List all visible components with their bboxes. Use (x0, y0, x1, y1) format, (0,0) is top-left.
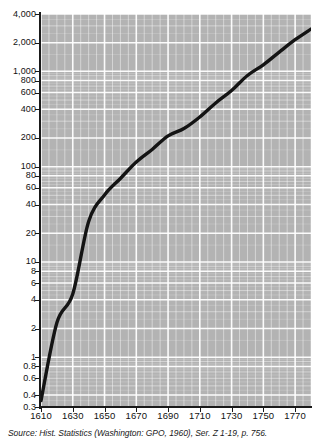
y-tick-mark (35, 357, 40, 358)
x-tick-mark (263, 408, 264, 412)
x-tick-label: 1710 (189, 411, 211, 421)
y-tick-label: 4,000 (13, 10, 36, 19)
x-tick-label: 1630 (62, 411, 84, 421)
plot-area (41, 14, 311, 407)
plot-canvas (41, 14, 311, 407)
x-tick-mark (41, 408, 42, 412)
y-tick-mark (35, 14, 40, 15)
x-tick-mark (168, 408, 169, 412)
x-tick-mark (105, 408, 106, 412)
x-axis-line (39, 406, 312, 408)
x-tick-label: 1670 (126, 411, 148, 421)
y-tick-mark (35, 138, 40, 139)
x-tick-label: 1770 (284, 411, 306, 421)
x-tick-mark (136, 408, 137, 412)
y-tick-mark (35, 283, 40, 284)
y-tick-mark (35, 395, 40, 396)
y-tick-mark (35, 43, 40, 44)
y-tick-mark (35, 300, 40, 301)
x-tick-mark (73, 408, 74, 412)
y-tick-mark (35, 93, 40, 94)
y-tick-mark (35, 176, 40, 177)
source-note: Source: Hist. Statistics (Washington: GP… (8, 428, 267, 438)
x-tick-mark (232, 408, 233, 412)
x-tick-label: 1730 (221, 411, 243, 421)
x-tick-label: 1650 (94, 411, 116, 421)
y-tick-mark (35, 71, 40, 72)
x-tick-label: 1690 (157, 411, 179, 421)
y-tick-mark (35, 167, 40, 168)
y-tick-label: 600 (21, 88, 36, 97)
y-tick-label: 2,000 (13, 38, 36, 47)
y-tick-mark (35, 262, 40, 263)
y-tick-mark (35, 378, 40, 379)
y-tick-label: 800 (21, 76, 36, 85)
y-tick-label: 400 (21, 105, 36, 114)
grid-vertical-major-lines (41, 14, 295, 407)
y-tick-label: 200 (21, 133, 36, 142)
grid-vertical-minor-lines (49, 14, 311, 407)
y-tick-mark (35, 233, 40, 234)
y-tick-mark (35, 366, 40, 367)
population-log-chart: 4,0002,0001,0008006004002001008060402010… (0, 0, 320, 443)
x-tick-mark (200, 408, 201, 412)
x-tick-mark (295, 408, 296, 412)
y-tick-mark (35, 329, 40, 330)
y-tick-mark (35, 271, 40, 272)
y-tick-mark (35, 188, 40, 189)
x-tick-label: 1750 (253, 411, 275, 421)
x-tick-label: 1610 (30, 411, 52, 421)
y-tick-mark (35, 407, 40, 408)
y-tick-mark (35, 109, 40, 110)
y-tick-mark (35, 81, 40, 82)
y-tick-mark (35, 205, 40, 206)
